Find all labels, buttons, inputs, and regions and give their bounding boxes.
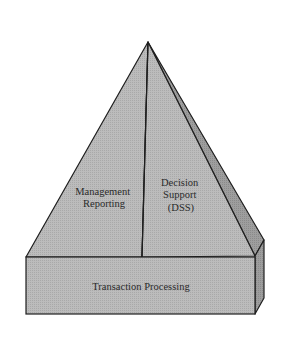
transaction-processing-label: Transaction Processing xyxy=(92,281,190,292)
management-reporting-label: Management Reporting xyxy=(75,186,132,209)
decision-support-line-2: Support xyxy=(163,189,196,200)
decision-support-face xyxy=(142,42,255,257)
management-reporting-line-1: Management xyxy=(75,186,130,197)
management-reporting-face xyxy=(26,42,148,257)
decision-support-line-1: Decision xyxy=(161,177,199,188)
pyramid-diagram: Management Reporting Decision Support (D… xyxy=(0,0,288,340)
decision-support-line-3: (DSS) xyxy=(168,202,195,214)
management-reporting-line-2: Reporting xyxy=(83,198,126,209)
